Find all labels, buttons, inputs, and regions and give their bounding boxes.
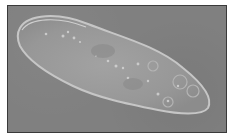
paramecium-cell	[8, 6, 227, 133]
cell-membrane	[18, 16, 210, 113]
micrograph-frame	[7, 5, 227, 133]
